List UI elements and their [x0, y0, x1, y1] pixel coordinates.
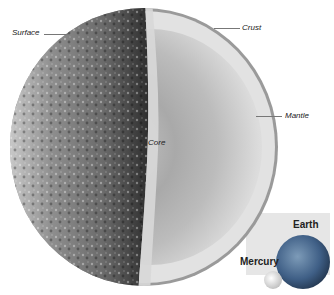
mercury-label: Mercury	[240, 256, 279, 267]
surface-label: Surface	[12, 28, 40, 37]
mercury-diagram: Surface Crust Mantle Core Earth Mercury	[0, 0, 334, 295]
surface-hemisphere	[0, 0, 159, 295]
crust-leader	[214, 28, 240, 29]
planet-cutaway	[0, 0, 334, 295]
surface-leader	[44, 34, 68, 35]
crust-label: Crust	[242, 23, 261, 32]
core-label: Core	[148, 138, 165, 147]
earth-globe	[276, 235, 330, 289]
mantle-leader	[256, 116, 282, 117]
mercury-globe	[264, 271, 282, 289]
earth-label: Earth	[293, 219, 319, 230]
mantle-label: Mantle	[285, 111, 309, 120]
